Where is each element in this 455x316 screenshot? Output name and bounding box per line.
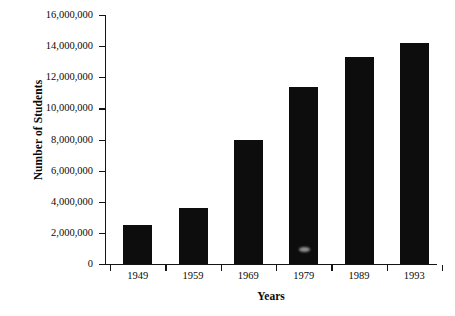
y-axis-tick-mark xyxy=(99,171,105,172)
y-axis-tick-mark xyxy=(99,15,105,16)
y-axis-tick-mark xyxy=(99,77,105,78)
y-axis-tick-label: 14,000,000 xyxy=(1,41,93,52)
bar xyxy=(345,57,374,264)
x-axis-tick-label: 1949 xyxy=(108,270,168,282)
x-axis-tick-label: 1993 xyxy=(384,270,444,282)
y-axis-tick-mark xyxy=(99,264,105,265)
x-axis-tick-label: 1989 xyxy=(329,270,389,282)
y-axis-tick-label: 6,000,000 xyxy=(1,166,93,177)
y-axis-tick-label: 2,000,000 xyxy=(1,228,93,239)
y-axis-tick-mark xyxy=(99,233,105,234)
bar-chart-figure: Number of Students 16,000,00014,000,0001… xyxy=(0,0,455,316)
y-axis-tick-mark xyxy=(99,140,105,141)
y-axis-tick-label: 8,000,000 xyxy=(1,135,93,146)
y-axis-tick-label: 4,000,000 xyxy=(1,197,93,208)
bar xyxy=(179,208,208,264)
x-axis-tick-label: 1969 xyxy=(218,270,278,282)
x-axis-tick-label-group: 194919591969197919891993 xyxy=(105,270,437,288)
y-axis-tick-label: 16,000,000 xyxy=(1,10,93,21)
scan-artifact-speckle xyxy=(299,247,310,252)
bar xyxy=(400,43,429,264)
y-axis-tick-mark xyxy=(99,108,105,109)
x-axis-tick-label: 1979 xyxy=(274,270,334,282)
bar xyxy=(234,140,263,265)
x-axis-title: Years xyxy=(105,290,437,302)
y-axis-tick-label: 0 xyxy=(1,259,93,270)
plot-area xyxy=(105,15,437,264)
bar xyxy=(289,87,318,264)
y-axis-tick-label-group: 16,000,00014,000,00012,000,00010,000,000… xyxy=(0,0,98,316)
y-axis-tick-mark xyxy=(99,202,105,203)
y-axis-tick-mark xyxy=(99,46,105,47)
bars-layer xyxy=(105,15,437,264)
bar xyxy=(123,225,152,264)
y-axis-tick-label: 12,000,000 xyxy=(1,72,93,83)
x-axis-tick-label: 1959 xyxy=(163,270,223,282)
y-axis-tick-label: 10,000,000 xyxy=(1,103,93,114)
